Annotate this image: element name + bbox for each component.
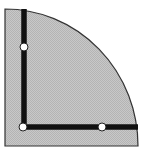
right-node — [98, 123, 106, 131]
corner-node — [19, 123, 27, 131]
top-node — [20, 43, 28, 51]
quarter-circle-diagram — [0, 0, 148, 151]
